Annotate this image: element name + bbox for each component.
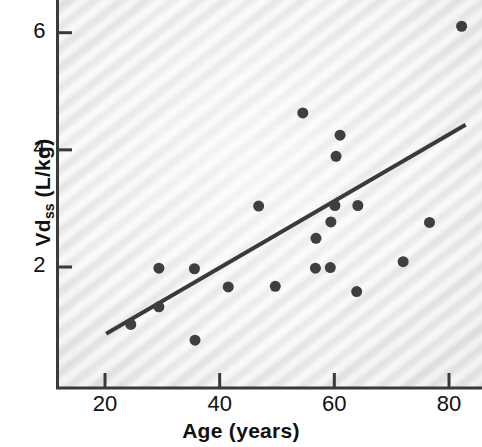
data-point [223, 281, 234, 292]
data-point [456, 21, 467, 32]
x-axis-tick-label: 80 [419, 391, 479, 417]
data-point [297, 107, 308, 118]
data-point [125, 319, 136, 330]
x-axis-tick-label: 60 [304, 391, 364, 417]
data-point [270, 281, 281, 292]
x-axis-title: Age (years) [0, 419, 482, 443]
data-point [153, 301, 164, 312]
y-axis-ticks [58, 33, 73, 267]
y-axis-title-base: Vd [31, 219, 54, 246]
data-point [329, 200, 340, 211]
data-point [424, 217, 435, 228]
data-points-group [125, 21, 467, 346]
data-point [352, 200, 363, 211]
plot-canvas [0, 0, 482, 447]
y-axis-title-subscript: ss [41, 204, 57, 219]
data-point [310, 263, 321, 274]
data-point [398, 256, 409, 267]
axes-group [56, 0, 482, 389]
data-point [335, 130, 346, 141]
data-point [351, 286, 362, 297]
x-axis-ticks [105, 373, 449, 388]
y-axis-title-unit: (L/kg) [31, 139, 54, 204]
x-axis-tick-label: 20 [75, 391, 135, 417]
data-point [189, 263, 200, 274]
y-axis-tick-label: 6 [2, 18, 46, 44]
x-axis-tick-label: 40 [190, 391, 250, 417]
scatter-plot-figure: 246 20406080 Age (years) Vdss (L/kg) [0, 0, 482, 447]
y-axis-title: Vdss (L/kg) [31, 63, 56, 323]
data-point [310, 233, 321, 244]
data-point [190, 335, 201, 346]
data-point [253, 201, 264, 212]
data-point [325, 216, 336, 227]
data-point [331, 151, 342, 162]
data-point [325, 262, 336, 273]
data-point [153, 263, 164, 274]
